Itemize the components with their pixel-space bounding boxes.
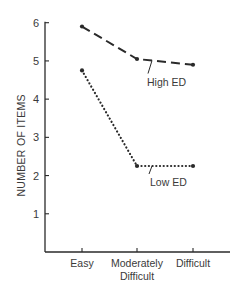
- x-category-label: Difficult: [120, 270, 154, 282]
- y-tick-label: 5: [33, 55, 39, 67]
- y-tick-label: 3: [33, 131, 39, 143]
- y-tick-label: 4: [33, 93, 39, 105]
- data-point: [191, 164, 195, 168]
- data-point: [80, 24, 84, 28]
- high-ed-leader: [148, 61, 152, 74]
- labels-group: High EDLow ED: [147, 61, 187, 188]
- x-category-label: Moderately: [111, 257, 164, 269]
- low-ed-leader: [149, 166, 152, 174]
- data-point: [135, 164, 139, 168]
- x-category-label: Easy: [70, 257, 94, 269]
- high-ed-label: High ED: [147, 76, 187, 88]
- line-chart: 123456EasyModeratelyDifficultDifficultNU…: [0, 0, 239, 296]
- y-axis-title: NUMBER OF ITEMS: [15, 94, 27, 197]
- series-group: [80, 24, 195, 168]
- data-point: [80, 68, 84, 72]
- data-point: [135, 57, 139, 61]
- y-tick-label: 1: [33, 208, 39, 220]
- low-ed-label: Low ED: [150, 176, 187, 188]
- y-tick-label: 2: [33, 170, 39, 182]
- x-category-label: Difficult: [176, 257, 210, 269]
- data-point: [191, 63, 195, 67]
- y-tick-label: 6: [33, 17, 39, 29]
- axes: 123456EasyModeratelyDifficultDifficultNU…: [15, 17, 230, 282]
